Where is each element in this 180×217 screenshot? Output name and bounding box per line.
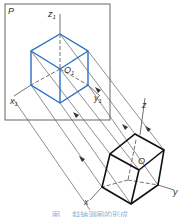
figure-caption: 图 … 斜轴测图的形成 [0, 209, 180, 217]
object-cube [102, 134, 164, 204]
axis-z-label: z [141, 100, 147, 110]
axis-y-label: y [172, 187, 178, 197]
axis-z1-label: z1 [47, 9, 56, 20]
oblique-axonometric-diagram: P z1 O1 x1 y1 z O y x [0, 0, 180, 217]
axis-x1-label: x1 [9, 96, 18, 107]
plane-label: P [8, 6, 14, 16]
origin-o1-label: O1 [64, 65, 74, 76]
origin-o-label: O [138, 156, 145, 166]
projection-axes [14, 14, 100, 96]
projected-cube [31, 34, 88, 103]
ray-arrows [73, 87, 151, 162]
axis-y1-label: y1 [93, 93, 102, 104]
axis-x-label: x [83, 197, 89, 207]
